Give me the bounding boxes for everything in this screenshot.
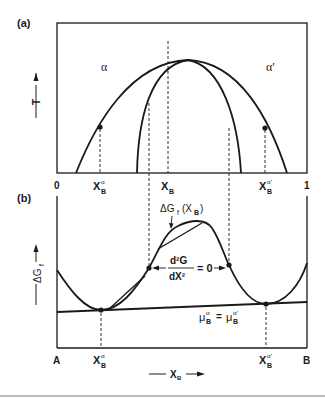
svg-text:ΔG: ΔG xyxy=(160,203,175,214)
g-axis-arrow-icon xyxy=(34,244,39,252)
chord-lower xyxy=(108,276,145,310)
svg-text:α′: α′ xyxy=(267,178,273,186)
phase-alpha-prime-label: α′ xyxy=(266,60,275,74)
x-tick-0: 0 xyxy=(54,180,60,191)
svg-text:α: α xyxy=(206,309,210,317)
x-tick-a: A xyxy=(53,355,60,366)
x-tick-1: 1 xyxy=(304,180,310,191)
panel-a-frame xyxy=(57,23,307,173)
x-tick-x-alpha-prime-a: X B α′ xyxy=(259,178,273,195)
svg-text:X: X xyxy=(93,180,101,192)
spinodal-point-left xyxy=(146,265,151,270)
arrow-left-icon xyxy=(152,266,159,271)
panel-b: (b) ΔG f Δ xyxy=(17,192,310,381)
x-axis-arrow-icon xyxy=(197,372,205,377)
t-axis-label: T xyxy=(31,73,42,118)
svg-text:μ: μ xyxy=(226,311,232,323)
svg-text:ΔG: ΔG xyxy=(32,268,43,283)
binodal-point-alpha xyxy=(97,124,102,129)
svg-text:f: f xyxy=(38,264,45,266)
svg-text:=: = xyxy=(216,311,222,322)
tangent-point-alpha-prime xyxy=(263,301,268,306)
svg-text:α′: α′ xyxy=(233,309,239,317)
svg-text:dX²: dX² xyxy=(169,271,186,282)
svg-text:B: B xyxy=(194,209,199,216)
panel-a: (a) T α α′ 0 1 X B α xyxy=(17,17,310,195)
svg-text:X: X xyxy=(259,354,267,366)
svg-text:B: B xyxy=(267,188,272,195)
svg-text:B: B xyxy=(206,318,211,325)
chord-upper xyxy=(158,223,202,249)
binodal-point-alpha-prime xyxy=(262,125,267,130)
svg-text:α: α xyxy=(101,178,105,186)
spinodal-condition-label: d²G dX² = 0 xyxy=(152,255,226,282)
chemical-potential-label: μ B α = μ B α′ xyxy=(199,309,239,325)
svg-text:α: α xyxy=(101,352,105,360)
svg-text:X: X xyxy=(93,354,101,366)
g-axis-label: ΔG f xyxy=(32,244,45,305)
svg-text:X: X xyxy=(259,180,267,192)
tangent-point-alpha xyxy=(98,307,103,312)
svg-text:α′: α′ xyxy=(267,352,273,360)
svg-text:f: f xyxy=(177,209,179,216)
miscibility-gap-diagram: (a) T α α′ 0 1 X B α xyxy=(0,0,325,399)
svg-text:X: X xyxy=(170,369,177,380)
svg-text:B: B xyxy=(169,188,174,195)
svg-text:B: B xyxy=(233,318,238,325)
svg-text:B: B xyxy=(101,188,106,195)
svg-text:): ) xyxy=(200,203,203,214)
svg-text:X: X xyxy=(161,180,169,192)
svg-text:B: B xyxy=(267,362,272,369)
arrow-right-icon xyxy=(219,266,226,271)
svg-text:B: B xyxy=(101,362,106,369)
phase-alpha-label: α xyxy=(101,60,108,74)
x-tick-x-alpha-prime-b: X B α′ xyxy=(259,352,273,369)
x-tick-x-b: X B xyxy=(161,180,174,195)
x-tick-x-alpha-b: X B α xyxy=(93,352,106,369)
x-tick-x-alpha-a: X B α xyxy=(93,178,106,195)
svg-text:d²G: d²G xyxy=(170,255,187,266)
x-tick-b: B xyxy=(303,355,310,366)
binodal-curve xyxy=(76,60,287,173)
panel-b-label: (b) xyxy=(17,192,31,204)
x-axis-label: X B xyxy=(149,369,205,381)
spinodal-point-right xyxy=(226,262,231,267)
svg-text:= 0: = 0 xyxy=(197,262,213,274)
common-tangent-line xyxy=(57,302,307,312)
svg-text:μ: μ xyxy=(199,311,205,323)
spinodal-curve xyxy=(137,60,241,173)
svg-text:(X: (X xyxy=(182,203,192,214)
panel-a-label: (a) xyxy=(17,17,31,29)
t-axis-text: T xyxy=(31,99,42,105)
svg-text:B: B xyxy=(177,375,182,381)
